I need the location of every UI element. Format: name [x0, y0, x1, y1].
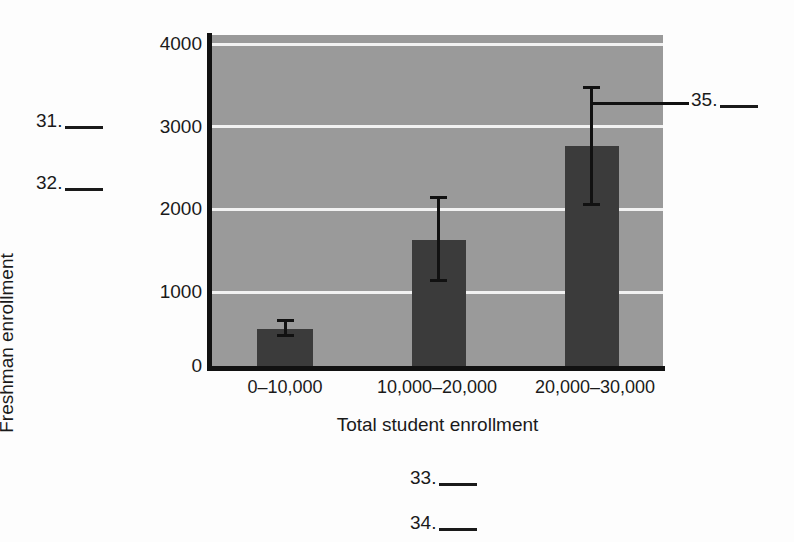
annotation-33-blank [439, 483, 477, 486]
y-axis-line [207, 33, 212, 370]
x-tick-0-10000: 0–10,000 [205, 376, 365, 398]
chart-figure: 4000 3000 2000 1000 0 0–10,000 10,000–20… [0, 0, 794, 542]
errorbar-cap-top-10000-20000 [430, 196, 447, 199]
annotation-33-label: 33. [410, 467, 436, 488]
y-tick-4000: 4000 [160, 34, 202, 53]
y-tick-0: 0 [191, 356, 202, 375]
x-tick-20000-30000: 20,000–30,000 [510, 376, 680, 398]
leader-line-35 [592, 102, 689, 105]
annotation-33: 33. [410, 467, 477, 489]
annotation-31: 31. [36, 110, 103, 132]
annotation-34-blank [439, 528, 477, 531]
annotation-34: 34. [410, 512, 477, 534]
x-tick-10000-20000: 10,000–20,000 [357, 376, 517, 398]
errorbar-cap-bottom-0-10000 [277, 334, 294, 337]
errorbar-cap-top-0-10000 [277, 319, 294, 322]
x-axis-line [207, 366, 665, 371]
gridline-4000 [212, 43, 663, 46]
annotation-32-blank [65, 188, 103, 191]
errorbar-cap-bottom-10000-20000 [430, 279, 447, 282]
annotation-31-blank [65, 126, 103, 129]
y-axis-ticks: 4000 3000 2000 1000 0 [110, 0, 202, 542]
annotation-35-blank [720, 105, 758, 108]
errorbar-line-10000-20000 [437, 196, 440, 282]
annotation-35: 35. [691, 89, 758, 111]
annotation-34-label: 34. [410, 512, 436, 533]
annotation-32: 32. [36, 172, 103, 194]
errorbar-cap-bottom-20000-30000 [583, 203, 600, 206]
plot-area [212, 35, 663, 368]
annotation-35-label: 35. [691, 89, 717, 110]
y-tick-2000: 2000 [160, 199, 202, 218]
annotation-32-label: 32. [36, 172, 62, 193]
y-tick-3000: 3000 [160, 117, 202, 136]
gridline-3000 [212, 125, 663, 128]
errorbar-cap-top-20000-30000 [583, 86, 600, 89]
y-tick-1000: 1000 [160, 282, 202, 301]
x-axis-title: Total student enrollment [212, 414, 663, 436]
y-axis-title: Freshman enrollment [0, 193, 18, 493]
annotation-31-label: 31. [36, 110, 62, 131]
